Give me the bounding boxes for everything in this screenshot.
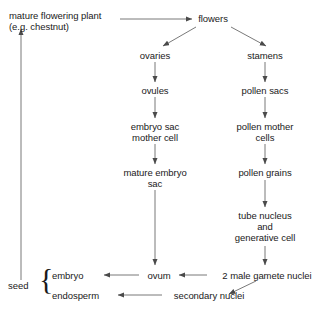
- node-mature-flowering-plant-line1: mature flowering plant: [9, 10, 121, 21]
- node-ovum: ovum: [140, 270, 178, 281]
- flowering-plant-life-cycle-diagram: mature flowering plant (e.g. chestnut) f…: [0, 0, 331, 319]
- node-stamens: stamens: [235, 50, 295, 61]
- node-flowers: flowers: [193, 13, 233, 24]
- node-pollen-sacs-label: pollen sacs: [235, 85, 295, 96]
- node-2-male-gamete-nuclei: 2 male gamete nuclei: [208, 270, 326, 281]
- node-ovules: ovules: [125, 85, 185, 96]
- node-pollen-mother-cells-line1: pollen mother: [225, 121, 305, 132]
- node-embryo-sac-mother-cell-line1: embryo sac: [115, 121, 195, 132]
- node-secondary-nuclei: secondary nuclei: [163, 290, 255, 301]
- node-embryo-sac-mother-cell-line2: mother cell: [115, 132, 195, 143]
- node-mature-embryo-sac-line1: mature embryo: [113, 167, 197, 178]
- node-pollen-grains-label: pollen grains: [228, 167, 302, 178]
- node-pollen-sacs: pollen sacs: [235, 85, 295, 96]
- node-pollen-mother-cells-line2: cells: [225, 132, 305, 143]
- node-embryo: embryo: [52, 270, 104, 281]
- node-ovaries-label: ovaries: [125, 50, 185, 61]
- node-tube-nucleus-line1: tube nucleus: [221, 210, 309, 221]
- node-embryo-label: embryo: [52, 270, 104, 281]
- node-tube-nucleus-and-generative-cell: tube nucleus and generative cell: [221, 210, 309, 243]
- edge-flowers-to-stamens: [231, 27, 266, 46]
- node-endosperm: endosperm: [52, 290, 122, 301]
- node-ovules-label: ovules: [125, 85, 185, 96]
- seed-grouping-brace: {: [39, 264, 53, 294]
- node-tube-nucleus-line2: and: [221, 221, 309, 232]
- node-flowers-label: flowers: [193, 13, 233, 24]
- node-embryo-sac-mother-cell: embryo sac mother cell: [115, 121, 195, 143]
- node-ovum-label: ovum: [140, 270, 178, 281]
- edge-flowers-to-ovaries: [163, 27, 196, 46]
- node-ovaries: ovaries: [125, 50, 185, 61]
- node-endosperm-label: endosperm: [52, 290, 122, 301]
- node-2-male-gamete-nuclei-label: 2 male gamete nuclei: [208, 270, 326, 281]
- node-mature-embryo-sac: mature embryo sac: [113, 167, 197, 189]
- node-seed: seed: [8, 280, 38, 291]
- node-stamens-label: stamens: [235, 50, 295, 61]
- node-mature-flowering-plant-line2: (e.g. chestnut): [9, 21, 121, 32]
- node-secondary-nuclei-label: secondary nuclei: [163, 290, 255, 301]
- node-pollen-mother-cells: pollen mother cells: [225, 121, 305, 143]
- node-mature-flowering-plant: mature flowering plant (e.g. chestnut): [9, 10, 121, 32]
- node-tube-nucleus-line3: generative cell: [221, 232, 309, 243]
- node-pollen-grains: pollen grains: [228, 167, 302, 178]
- node-seed-label: seed: [8, 280, 38, 291]
- node-mature-embryo-sac-line2: sac: [113, 178, 197, 189]
